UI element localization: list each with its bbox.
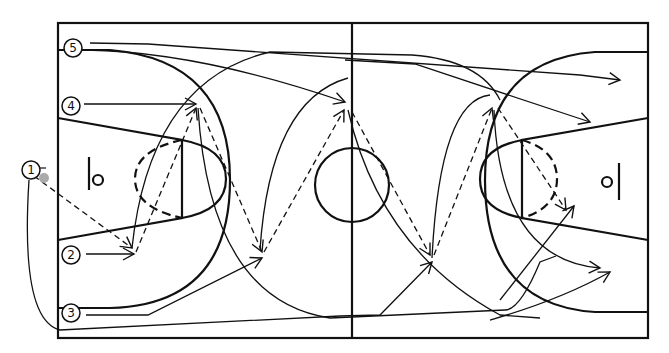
right-key <box>522 118 648 240</box>
pass-wing-to-center <box>264 110 344 252</box>
left-free-throw-arc <box>182 140 226 218</box>
arc-wing-to-top <box>260 78 348 250</box>
left-free-throw-arc-dashed <box>135 140 182 218</box>
player-5: 5 <box>64 39 82 57</box>
player-1-label: 1 <box>27 163 35 177</box>
left-key <box>58 118 182 240</box>
arc-wing-to-right <box>432 95 490 258</box>
player-2: 2 <box>62 246 80 264</box>
path-player-3 <box>86 258 262 315</box>
pass-right-wing-to-top <box>434 108 492 255</box>
left-three-point-line <box>58 50 230 308</box>
path-player-5 <box>90 43 620 80</box>
pass-center-to-right-wing <box>352 112 430 255</box>
player-5-label: 5 <box>69 41 77 55</box>
basketball-icon <box>39 173 49 183</box>
arc-left-to-right-top <box>132 52 500 248</box>
player-4: 4 <box>62 97 80 115</box>
player-4-label: 4 <box>67 99 75 113</box>
player-1: 1 <box>22 161 49 183</box>
court-lines <box>58 23 648 338</box>
player-3-label: 3 <box>67 306 75 320</box>
pass-paths <box>34 108 566 255</box>
left-hoop <box>93 175 103 185</box>
movement-paths <box>27 43 620 330</box>
player-2-label: 2 <box>67 248 75 262</box>
right-three-point-line <box>485 52 648 312</box>
right-hoop <box>602 177 612 187</box>
player-3: 3 <box>62 304 80 322</box>
pass-1-to-2 <box>34 176 132 248</box>
path-center-to-right-block <box>345 60 590 122</box>
court-diagram: 1 2 3 4 5 <box>0 0 669 353</box>
arc-right-baseline <box>494 110 600 268</box>
